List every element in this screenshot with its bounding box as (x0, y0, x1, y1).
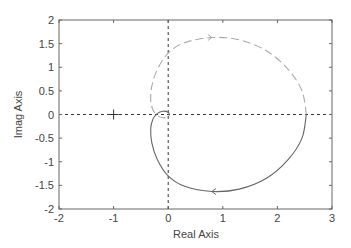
y-tick-label: 0 (48, 109, 54, 121)
y-tick-label: -1 (44, 156, 54, 168)
y-tick-labels: 2 1.5 1 0.5 0 -0.5 -1 -1.5 -2 (35, 14, 54, 215)
x-tick-label: 1 (220, 212, 226, 224)
y-tick-label: 0.5 (39, 85, 54, 97)
x-tick-label: 3 (329, 212, 335, 224)
x-tick-label: -1 (109, 212, 119, 224)
nyquist-plot: -2 -1 0 1 2 3 2 1.5 1 0.5 0 -0.5 -1 -1.5… (0, 0, 351, 248)
x-tick-label: 2 (274, 212, 280, 224)
y-tick-label: -1.5 (35, 179, 54, 191)
y-tick-label: 2 (48, 14, 54, 26)
x-tick-labels: -2 -1 0 1 2 3 (54, 212, 335, 224)
y-tick-label: 1.5 (39, 38, 54, 50)
y-tick-label: 1 (48, 61, 54, 73)
y-tick-label: -0.5 (35, 132, 54, 144)
plot-area (59, 20, 332, 209)
x-tick-label: 0 (165, 212, 171, 224)
y-axis-label: Imag Axis (12, 90, 24, 138)
x-axis-label: Real Axis (173, 228, 219, 240)
x-tick-label: -2 (54, 212, 64, 224)
y-tick-label: -2 (44, 203, 54, 215)
